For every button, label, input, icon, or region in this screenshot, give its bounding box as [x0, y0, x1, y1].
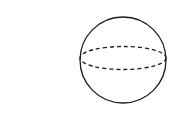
- sphere-outline: [80, 17, 166, 103]
- sphere-equator-dashed: [80, 47, 166, 70]
- sphere-diagram: [0, 0, 172, 114]
